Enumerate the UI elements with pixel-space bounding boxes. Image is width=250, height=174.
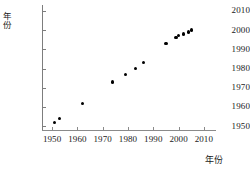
data-point: [124, 73, 127, 76]
data-point: [81, 102, 84, 105]
y-tick-label: 1990: [216, 45, 250, 54]
data-point: [190, 28, 193, 31]
x-axis-title: 年份: [205, 155, 223, 165]
y-tick-label: 1950: [216, 122, 250, 131]
plot-area: [42, 7, 214, 130]
y-tick-label: 2010: [216, 6, 250, 15]
y-tick-label: 1980: [216, 64, 250, 73]
y-axis-title: 年份: [1, 12, 10, 30]
x-axis-line: [42, 130, 216, 131]
scatter-chart: 年份 1950196019701980199020002010 19501960…: [0, 0, 250, 174]
y-tick-label: 2000: [216, 26, 250, 35]
y-tick-label: 1960: [216, 102, 250, 111]
data-point: [182, 32, 185, 35]
y-tick-label: 1970: [216, 83, 250, 92]
x-tick-label: 2010: [187, 135, 221, 144]
data-point: [164, 42, 167, 45]
